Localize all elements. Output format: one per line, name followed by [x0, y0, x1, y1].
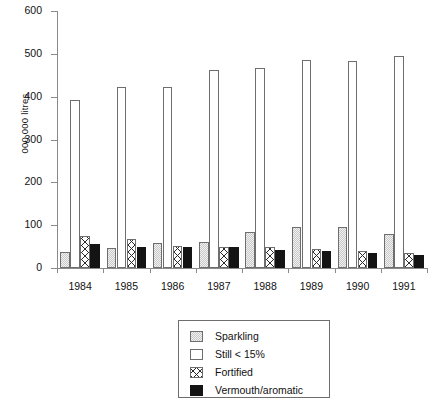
legend-label: Still < 15%: [215, 348, 265, 360]
bar-still: [209, 70, 219, 268]
x-axis-tick-label: 1984: [57, 280, 103, 292]
x-axis-tick-label: 1989: [288, 280, 334, 292]
x-axis-tick: [242, 268, 243, 273]
bar-group: [242, 11, 288, 268]
y-axis-tick-label: 100: [24, 218, 42, 230]
bar-group: [103, 11, 149, 268]
legend-item: Still < 15%: [190, 347, 265, 361]
bar-sparkling: [107, 248, 117, 268]
bar-sparkling: [60, 252, 70, 268]
x-axis-tick-label: 1986: [150, 280, 196, 292]
bar-group: [288, 11, 334, 268]
bar-still: [302, 60, 312, 268]
bar-sparkling: [199, 242, 209, 268]
x-axis-tick-label: 1987: [196, 280, 242, 292]
x-axis-tick: [381, 268, 382, 273]
bar-fortified: [404, 253, 414, 268]
bar-vermouth: [275, 250, 285, 268]
bar-group: [150, 11, 196, 268]
y-axis-tick-label: 300: [24, 133, 42, 145]
bar-still: [163, 87, 173, 268]
bar-fortified: [173, 246, 183, 268]
bar-fortified: [127, 239, 137, 268]
bar-vermouth: [90, 244, 100, 268]
x-axis-tick: [427, 268, 428, 273]
legend-item: Sparkling: [190, 329, 259, 343]
bar-still: [394, 56, 404, 268]
bar-chart: 000 000 litres 0100200300400500600 19841…: [0, 0, 434, 415]
x-axis-tick: [288, 268, 289, 273]
bar-sparkling: [153, 243, 163, 268]
bar-vermouth: [414, 255, 424, 268]
bar-fortified: [80, 236, 90, 268]
x-axis-tick: [196, 268, 197, 273]
plot-area: 0100200300400500600 19841985198619871988…: [57, 11, 427, 268]
legend-item: Fortified: [190, 365, 253, 379]
fortified-swatch: [190, 367, 203, 378]
bar-fortified: [219, 247, 229, 268]
bar-vermouth: [183, 247, 193, 268]
x-axis-tick-label: 1990: [335, 280, 381, 292]
sparkling-swatch: [190, 331, 203, 342]
y-axis-tick-label: 200: [24, 175, 42, 187]
x-axis-tick-label: 1988: [242, 280, 288, 292]
y-axis-title: 000 000 litres: [19, 64, 30, 184]
x-axis-tick: [150, 268, 151, 273]
bar-still: [117, 87, 127, 268]
bar-still: [348, 61, 358, 268]
legend-label: Vermouth/aromatic: [215, 384, 303, 396]
bar-group: [57, 11, 103, 268]
x-axis-tick-label: 1985: [103, 280, 149, 292]
y-axis-tick-label: 400: [24, 90, 42, 102]
bar-vermouth: [368, 253, 378, 268]
bar-still: [70, 100, 80, 268]
legend-item: Vermouth/aromatic: [190, 383, 303, 397]
y-axis-tick-label: 500: [24, 47, 42, 59]
bar-vermouth: [137, 247, 147, 268]
legend-label: Fortified: [215, 366, 253, 378]
x-axis-tick: [335, 268, 336, 273]
bar-sparkling: [384, 234, 394, 268]
chart-legend: SparklingStill < 15%FortifiedVermouth/ar…: [178, 320, 330, 398]
bar-sparkling: [338, 227, 348, 268]
bar-still: [255, 68, 265, 268]
still-swatch: [190, 349, 203, 360]
vermouth-swatch: [190, 385, 203, 396]
x-axis-tick: [57, 268, 58, 273]
bar-group: [196, 11, 242, 268]
bar-fortified: [312, 249, 322, 268]
bar-sparkling: [245, 232, 255, 268]
bar-vermouth: [229, 247, 239, 268]
bar-group: [381, 11, 427, 268]
y-axis-tick-label: 0: [36, 261, 42, 273]
bar-sparkling: [292, 227, 302, 268]
legend-label: Sparkling: [215, 330, 259, 342]
x-axis-tick: [103, 268, 104, 273]
y-axis-tick-label: 600: [24, 4, 42, 16]
bar-fortified: [358, 251, 368, 268]
bar-group: [335, 11, 381, 268]
x-axis-tick-label: 1991: [381, 280, 427, 292]
bar-fortified: [265, 247, 275, 268]
bar-vermouth: [322, 251, 332, 268]
